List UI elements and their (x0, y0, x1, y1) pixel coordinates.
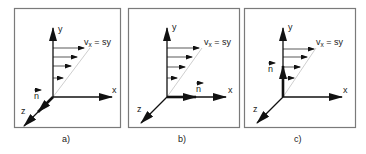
normal-label-text: n (268, 64, 273, 74)
velocity-profile-line (283, 48, 316, 97)
panel-c: y x z n vx = sy c) (245, 9, 356, 145)
x-axis-label: x (343, 85, 348, 95)
y-axis-label: y (58, 24, 63, 34)
normal-vector-arrow (38, 97, 53, 112)
z-axis-arrow (257, 97, 283, 123)
panel-caption: b) (178, 134, 186, 144)
panel-frame (129, 9, 240, 128)
normal-vector-label: n (268, 63, 275, 74)
panel-frame (15, 9, 121, 128)
z-axis-label: z (137, 104, 142, 114)
normal-label-text: n (196, 84, 201, 94)
z-axis-label: z (21, 106, 26, 116)
x-axis-label: x (112, 85, 117, 95)
z-axis-label: z (253, 104, 258, 114)
velocity-profile-line (53, 48, 90, 97)
shear-flow-figure: y x z n vx = sy a) y x z n vx = sy (0, 0, 366, 154)
panel-b: y x z n vx = sy b) (129, 9, 240, 145)
normal-label-text: n (34, 91, 39, 101)
normal-vector-label: n (196, 83, 203, 94)
velocity-equation: vx = sy (204, 37, 232, 48)
panel-a: y x z n vx = sy a) (15, 9, 121, 145)
y-axis-label: y (288, 22, 293, 32)
velocity-equation: vx = sy (316, 37, 344, 48)
velocity-arrows (167, 48, 199, 78)
x-axis-label: x (228, 85, 233, 95)
panel-caption: c) (294, 134, 302, 144)
velocity-arrows (53, 48, 84, 78)
normal-vector-label: n (34, 90, 41, 101)
panel-frame (245, 9, 356, 128)
z-axis-arrow (141, 97, 167, 123)
velocity-equation: vx = sy (84, 37, 112, 48)
y-axis-label: y (172, 22, 177, 32)
panel-caption: a) (62, 134, 70, 144)
